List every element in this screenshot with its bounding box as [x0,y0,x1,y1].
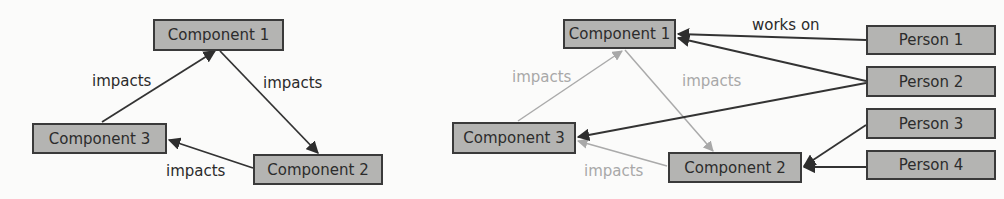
node-person-2: Person 2 [866,66,996,97]
edge-r-c3-to-c1 [518,51,622,121]
node-person-4: Person 4 [866,150,996,180]
edge-label-r-c2-c3: impacts [584,162,643,180]
edge-p3-to-c2 [804,125,866,166]
edge-p2-to-c3 [578,83,866,137]
edge-label-r-c3-c1: impacts [512,68,571,86]
node-person-3: Person 3 [866,108,996,139]
edge-label-c3-c1: impacts [92,72,151,90]
edge-c1-to-c2 [220,51,318,153]
node-r-component-1: Component 1 [563,19,676,49]
edges-layer [0,0,1004,199]
node-r-component-2: Component 2 [668,152,802,183]
edge-label-c1-c2: impacts [263,74,322,92]
node-component-2: Component 2 [253,154,383,185]
edge-label-works-on: works on [752,16,820,34]
edge-p1-to-c1 [678,34,866,40]
node-r-component-3: Component 3 [452,122,576,154]
edge-label-c2-c3: impacts [166,162,225,180]
node-component-1: Component 1 [153,19,284,51]
edge-r-c1-to-c2 [625,50,713,151]
edge-label-r-c1-c2: impacts [682,72,741,90]
node-component-3: Component 3 [32,123,167,154]
node-person-1: Person 1 [866,25,996,55]
